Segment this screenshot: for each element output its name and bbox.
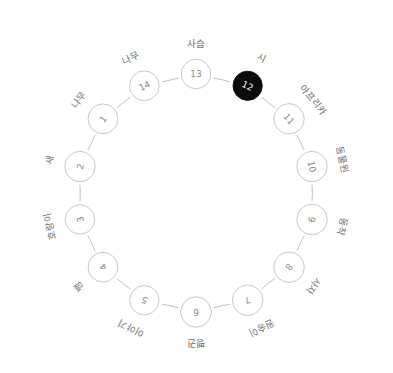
node-label-14: 나무 <box>120 49 141 67</box>
node-number-13: 13 <box>190 69 201 79</box>
edge-5-4 <box>117 279 129 289</box>
node-1[interactable]: 1 <box>88 104 118 134</box>
node-10[interactable]: 10 <box>297 151 327 181</box>
node-label-3: 호랑이 <box>41 212 58 241</box>
node-label-12: 시 <box>255 51 268 65</box>
edge-7-6 <box>214 304 230 308</box>
node-7[interactable]: 7 <box>232 285 263 316</box>
node-label-2: 새 <box>43 154 56 165</box>
node-9[interactable]: 9 <box>297 204 328 235</box>
node-label-6: 펭귄 <box>187 338 205 349</box>
node-label-10: 동물원 <box>334 145 351 174</box>
edge-12-11 <box>262 97 274 107</box>
edge-8-7 <box>262 279 274 289</box>
node-8[interactable]: 8 <box>274 252 305 283</box>
edge-1-14 <box>117 97 129 107</box>
edge-11-10 <box>297 135 304 149</box>
node-6[interactable]: 6 <box>181 297 211 327</box>
node-4[interactable]: 4 <box>88 252 118 282</box>
node-label-9: 동작 <box>335 216 350 236</box>
node-12[interactable]: 12 <box>233 71 262 100</box>
node-number-6: 6 <box>193 307 199 317</box>
node-label-4: 뱀 <box>72 280 86 294</box>
node-label-8: 사자 <box>303 276 323 297</box>
edge-4-3 <box>88 236 95 250</box>
node-5[interactable]: 5 <box>130 286 159 315</box>
node-3[interactable]: 3 <box>65 205 94 234</box>
node-label-1: 나무 <box>69 89 89 110</box>
edge-2-1 <box>88 135 95 149</box>
node-label-7: 원숭이 <box>247 317 276 339</box>
edge-14-13 <box>162 78 178 82</box>
node-label-13: 사슴 <box>187 38 205 49</box>
edge-13-12 <box>214 78 230 82</box>
diagram-canvas: 1312111098765432114 사슴시아프리카동물원동작사자원숭이펭귄이… <box>0 0 393 373</box>
edge-9-8 <box>297 236 304 250</box>
node-14[interactable]: 14 <box>130 71 160 101</box>
node-2[interactable]: 2 <box>65 151 95 181</box>
circular-node-graph: 1312111098765432114 사슴시아프리카동물원동작사자원숭이펭귄이… <box>0 0 393 373</box>
node-label-5: 이야기 <box>116 317 145 339</box>
node-11[interactable]: 11 <box>274 104 304 134</box>
node-layer: 1312111098765432114 <box>65 59 327 327</box>
node-13[interactable]: 13 <box>181 59 210 88</box>
edge-6-5 <box>162 304 178 308</box>
